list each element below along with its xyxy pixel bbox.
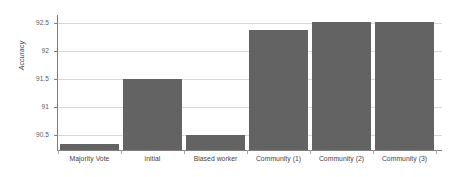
y-tick-label: 92 xyxy=(23,47,49,54)
bar xyxy=(186,135,244,150)
x-tick-mark xyxy=(310,150,311,154)
x-tick-mark xyxy=(58,150,59,154)
x-category-label: Community (3) xyxy=(373,155,436,162)
x-axis-line xyxy=(57,150,442,151)
bar xyxy=(123,79,181,150)
y-tick-label: 90.5 xyxy=(23,131,49,138)
plot-area xyxy=(58,15,436,150)
x-category-label: initial xyxy=(121,155,184,162)
x-tick-mark xyxy=(184,150,185,154)
bar xyxy=(375,22,433,150)
x-tick-mark xyxy=(247,150,248,154)
y-tick-label: 91 xyxy=(23,103,49,110)
y-tick-label: 92.5 xyxy=(23,19,49,26)
x-category-label: Community (1) xyxy=(247,155,310,162)
bar-chart: Accuracy 90.59191.59292.5 Majority Votei… xyxy=(0,0,462,177)
x-category-label: Community (2) xyxy=(310,155,373,162)
bar xyxy=(312,22,370,150)
x-category-label: Majority Vote xyxy=(58,155,121,162)
x-tick-mark xyxy=(373,150,374,154)
bar xyxy=(249,30,307,150)
x-category-label: Biased worker xyxy=(184,155,247,162)
bar xyxy=(60,144,118,150)
x-tick-mark xyxy=(436,150,437,154)
x-tick-mark xyxy=(121,150,122,154)
y-tick-label: 91.5 xyxy=(23,75,49,82)
